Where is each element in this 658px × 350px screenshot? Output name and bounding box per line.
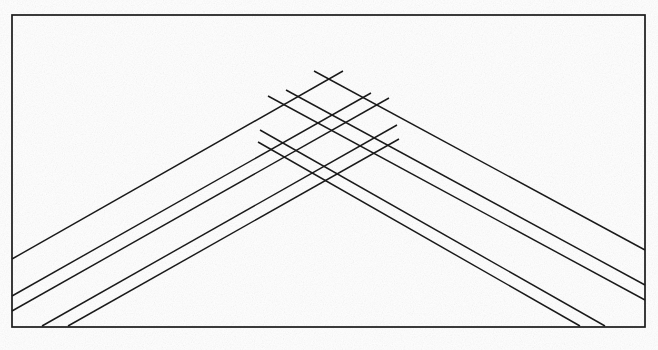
line-diagram-svg: [0, 0, 658, 350]
paper-background: [0, 0, 658, 350]
figure-container: [0, 0, 658, 350]
